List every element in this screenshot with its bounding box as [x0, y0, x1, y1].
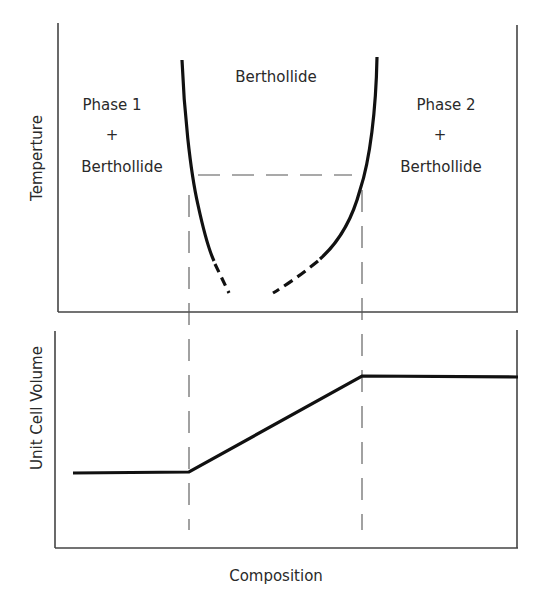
unit-cell-volume-axis-label: Unit Cell Volume: [28, 346, 46, 470]
composition-axis-label: Composition: [229, 567, 323, 585]
phase-diagram: Phase 1 + Berthollide Berthollide Phase …: [0, 0, 539, 601]
berthollide-label: Berthollide: [235, 68, 317, 86]
unit-cell-volume-line: [73, 376, 518, 473]
svg-text:Berthollide: Berthollide: [81, 158, 163, 176]
svg-text:+: +: [106, 126, 119, 144]
phase1-label: Phase 1 + Berthollide: [81, 96, 163, 176]
temperature-axis-label: Temperture: [28, 115, 46, 202]
bottom-panel-frame: [55, 330, 518, 548]
right-phase-boundary: [320, 57, 377, 259]
svg-text:Berthollide: Berthollide: [400, 158, 482, 176]
svg-text:Phase 1: Phase 1: [82, 96, 141, 114]
phase2-label: Phase 2 + Berthollide: [400, 96, 482, 176]
svg-text:Phase 2: Phase 2: [416, 96, 475, 114]
left-phase-boundary: [182, 60, 214, 261]
svg-text:+: +: [434, 126, 447, 144]
left-phase-boundary-dashed: [215, 264, 229, 293]
right-phase-boundary-dashed: [273, 261, 318, 293]
